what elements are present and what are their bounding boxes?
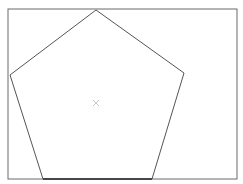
- frame-rectangle: [8, 9, 237, 179]
- pentagon-shape: [10, 10, 184, 179]
- diagram-canvas: [0, 0, 243, 184]
- center-marker-icon: [93, 100, 99, 106]
